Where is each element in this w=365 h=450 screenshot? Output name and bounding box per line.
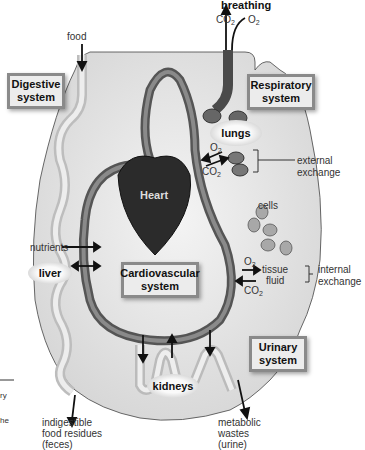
digestive-system-box: Digestivesystem [7,73,65,109]
nutrients-label: nutrients [30,242,68,253]
label-line: metabolic [218,417,261,428]
label-line: (urine) [218,439,261,450]
subscript: 2 [259,290,263,297]
tissue-fluid-label: tissuefluid [262,264,288,286]
box-line: system [120,280,199,293]
tissue-co2-label: CO2 [244,285,263,299]
respiratory-system-box: Respiratorysystem [247,74,315,110]
label-line: exchange [297,167,340,179]
food-label: food [67,31,86,42]
co2-text: CO [244,285,259,296]
breathing-co2-label: CO2 [216,14,235,28]
cutoff-text-2: he [0,415,9,426]
internal-exchange-label: internalexchange [318,264,361,288]
subscript: 2 [218,147,222,154]
lung-o2-label: O2 [210,142,222,156]
subscript: 2 [231,19,235,26]
breathing-o2-label: O2 [248,14,260,28]
box-line: Urinary [259,341,298,354]
liver-oval: liver [28,262,72,284]
o2-text: O [248,14,256,25]
tissue-o2-label: O2 [244,256,256,270]
subscript: 2 [256,19,260,26]
label-line: tissue [262,264,288,275]
label-line: food residues [42,428,102,439]
heart-label: Heart [140,190,168,201]
label-line: (feces) [42,439,102,450]
subscript: 2 [252,261,256,268]
kidneys-oval: kidneys [147,374,199,398]
box-line: system [12,91,61,104]
label-line: internal [318,264,361,276]
subscript: 2 [217,171,221,178]
urinary-system-box: Urinarysystem [249,336,307,372]
label-line: indigestible [42,417,102,428]
feces-label: indigestiblefood residues(feces) [42,417,102,450]
lung-co2-label: CO2 [202,166,221,180]
o2-text: O [244,256,252,267]
box-line: system [259,354,298,367]
label-line: wastes [218,428,261,439]
box-line: system [250,92,311,105]
breathing-label: breathing [221,0,271,11]
box-line: Cardiovascular [120,267,199,280]
cells-label: cells [258,200,278,211]
cardiovascular-system-box: Cardiovascularsystem [121,262,199,298]
box-line: Digestive [12,78,61,91]
label-line: external [297,155,340,167]
urine-label: metabolicwastes(urine) [218,417,261,450]
box-line: Respiratory [250,79,311,92]
co2-text: CO [202,166,217,177]
label-line: exchange [318,276,361,288]
external-exchange-label: externalexchange [297,155,340,179]
label-line: fluid [262,275,288,286]
co2-text: CO [216,14,231,25]
o2-text: O [210,142,218,153]
cutoff-text-1: ry [0,390,7,401]
